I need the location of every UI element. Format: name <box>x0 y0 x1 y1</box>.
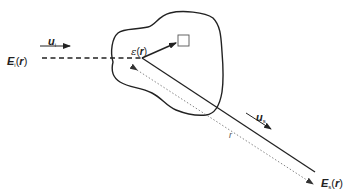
paren-close: ) <box>24 55 28 67</box>
scattered-direction-label: us <box>256 108 266 124</box>
scattered-direction-symbol: u <box>256 111 263 123</box>
scattered-ray <box>142 58 315 172</box>
incident-direction-subscript: i <box>55 42 56 48</box>
distance-arrow <box>137 70 313 184</box>
permittivity-label: ε(r) <box>131 42 147 58</box>
incident-direction-label: ui <box>48 32 56 48</box>
distance-label: r <box>229 131 232 140</box>
incident-field-label: Ei(r) <box>7 52 27 68</box>
diagram-canvas <box>0 0 352 194</box>
paren-close: ) <box>144 46 147 57</box>
scattered-field-label: Es(r) <box>321 174 343 190</box>
scattered-direction-subscript: s <box>263 118 266 124</box>
paren-close: ) <box>339 177 343 189</box>
incident-direction-symbol: u <box>48 35 55 47</box>
volume-element-arrow <box>142 43 176 58</box>
volume-element-square <box>178 35 189 46</box>
